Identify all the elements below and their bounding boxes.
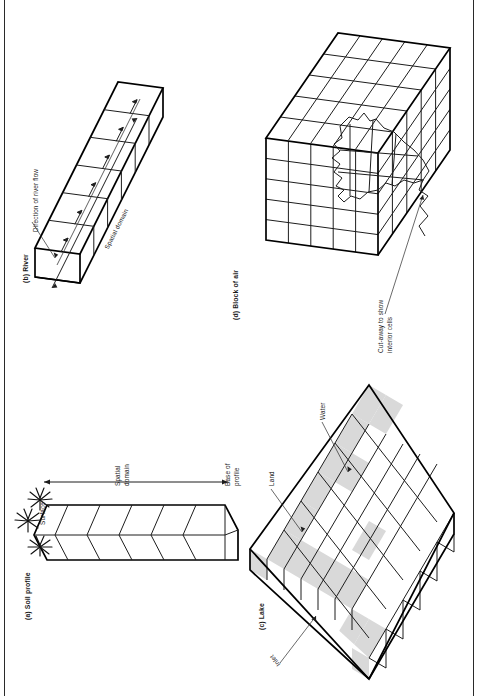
panel-block-of-air: (d) Block of air Cut-away to show interi… <box>218 20 480 380</box>
panel-soil-profile: (a) Soil profile Surface Spatial domain … <box>0 420 240 696</box>
lake-grid-drawing <box>240 380 480 696</box>
label-soil-spatial-domain-line1: Spatial <box>114 465 122 486</box>
soil-profile-drawing <box>0 420 240 696</box>
label-direction-of-river-flow: Direction of river flow <box>32 169 40 232</box>
label-soil-spatial-domain-line2: domain <box>123 464 131 486</box>
figure-canvas: (b) River Direction of river flow Spatia… <box>0 0 480 696</box>
panel-caption-soil-profile: (a) Soil profile <box>24 572 32 620</box>
panel-caption-block-of-air: (d) Block of air <box>232 270 240 320</box>
panel-river: (b) River Direction of river flow Spatia… <box>0 0 240 350</box>
label-cutaway-line1: Cut-away to show <box>377 300 385 353</box>
lake-slab <box>250 385 454 679</box>
label-water: Water <box>319 402 327 420</box>
label-surface: Surface <box>39 502 47 525</box>
air-block-cube-drawing <box>218 20 480 380</box>
label-cutaway-line2: interior cells <box>386 317 394 353</box>
panel-caption-river: (b) River <box>22 254 30 283</box>
figure-page: (b) River Direction of river flow Spatia… <box>0 0 480 696</box>
label-base-of-profile-line1: Base of <box>224 463 232 486</box>
soil-spatial-domain-arrow <box>44 480 228 485</box>
panel-lake: (c) Lake Land Water Inlet <box>240 380 480 696</box>
panel-caption-lake: (c) Lake <box>258 603 266 630</box>
label-land: Land <box>268 471 276 486</box>
